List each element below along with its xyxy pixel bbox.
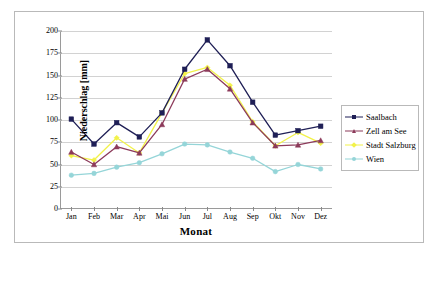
data-point	[182, 67, 187, 72]
x-axis-tick-label: Feb	[88, 213, 100, 221]
x-axis-title: Monat	[60, 225, 332, 237]
y-axis-tick-mark	[58, 209, 62, 210]
y-axis-title: Niederschlag [mm]	[78, 31, 89, 171]
data-point	[250, 100, 255, 105]
y-axis-tick-label: 100	[24, 116, 58, 124]
series-line	[71, 40, 320, 144]
data-point	[159, 122, 164, 127]
plot-area: Niederschlag [mm]	[60, 31, 332, 209]
x-axis-tick-mark	[321, 207, 322, 211]
y-axis-tick-mark	[58, 120, 62, 121]
y-axis-tick-label: 75	[24, 138, 58, 146]
data-point	[205, 143, 210, 148]
x-axis-tick-label: Jun	[179, 213, 190, 221]
series-line	[71, 69, 320, 164]
x-axis-tick-label: Aug	[223, 213, 237, 221]
x-axis-tick-mark	[253, 207, 254, 211]
legend-label: Zell am See	[366, 127, 407, 136]
x-axis-tick-mark	[94, 207, 95, 211]
y-axis-tick-mark	[58, 31, 62, 32]
legend-label: Stadt Salzburg	[366, 141, 416, 150]
legend-label: Wien	[366, 155, 384, 164]
y-axis-tick-label: 175	[24, 49, 58, 57]
x-axis-tick-mark	[207, 207, 208, 211]
data-point	[114, 120, 119, 125]
series-zell-am-see	[69, 67, 324, 167]
x-axis-tick-mark	[117, 207, 118, 211]
data-point	[92, 171, 97, 176]
y-axis-tick-mark	[58, 142, 62, 143]
chart-figure: Niederschlag [mm] 0255075100125150175200…	[14, 11, 424, 243]
x-axis-tick-mark	[298, 207, 299, 211]
x-axis-tick-label: Jan	[66, 213, 77, 221]
series-line	[71, 67, 320, 160]
x-axis-tick-mark	[162, 207, 163, 211]
x-axis-tick-label: Jul	[203, 213, 212, 221]
y-axis-tick-label: 25	[24, 183, 58, 191]
legend-swatch-icon	[345, 126, 363, 136]
legend-label: Saalbach	[366, 113, 397, 122]
x-axis-ticks: JanFebMarAprMaiJunJulAugSepOktNovDez	[60, 211, 332, 225]
x-axis-tick-label: Okt	[269, 213, 281, 221]
x-axis-tick-label: Mar	[110, 213, 123, 221]
data-point	[69, 117, 74, 122]
y-axis-tick-label: 125	[24, 94, 58, 102]
data-series-layer	[60, 31, 332, 209]
data-point	[69, 149, 74, 154]
data-point	[114, 144, 119, 149]
x-axis-tick-label: Nov	[291, 213, 305, 221]
legend-item[interactable]: Zell am See	[345, 124, 415, 138]
y-axis-tick-label: 0	[24, 205, 58, 213]
series-stadt-salzburg	[69, 65, 324, 163]
x-axis-tick-label: Sep	[247, 213, 259, 221]
y-axis-tick-label: 150	[24, 72, 58, 80]
legend-item[interactable]: Saalbach	[345, 110, 415, 124]
legend-swatch-icon	[345, 140, 363, 150]
x-axis-tick-mark	[71, 207, 72, 211]
legend-item[interactable]: Wien	[345, 152, 415, 166]
data-point	[182, 142, 187, 147]
y-axis-tick-mark	[58, 97, 62, 98]
y-axis-tick-label: 50	[24, 161, 58, 169]
series-saalbach	[69, 38, 323, 147]
data-point	[296, 162, 301, 167]
y-axis-tick-mark	[58, 186, 62, 187]
x-axis-tick-label: Apr	[133, 213, 145, 221]
x-axis-tick-mark	[185, 207, 186, 211]
data-point	[228, 63, 233, 68]
x-axis-tick-label: Dez	[314, 213, 327, 221]
y-axis-tick-mark	[58, 164, 62, 165]
data-point	[296, 128, 301, 133]
data-point	[205, 38, 210, 43]
data-point	[160, 152, 165, 157]
legend-swatch-icon	[345, 154, 363, 164]
y-axis-ticks: 0255075100125150175200	[20, 31, 58, 209]
data-point	[137, 160, 142, 165]
y-axis-tick-mark	[58, 53, 62, 54]
legend-swatch-icon	[345, 112, 363, 122]
y-axis-tick-label: 200	[24, 27, 58, 35]
data-point	[318, 167, 323, 172]
data-point	[137, 135, 142, 140]
data-point	[92, 142, 97, 147]
data-point	[250, 156, 255, 161]
x-axis-tick-mark	[230, 207, 231, 211]
data-point	[69, 173, 74, 178]
data-point	[273, 169, 278, 174]
x-axis-tick-mark	[275, 207, 276, 211]
chart-legend: SaalbachZell am SeeStadt SalzburgWien	[341, 105, 419, 171]
data-point	[273, 133, 278, 138]
data-point	[160, 111, 165, 116]
x-axis-tick-mark	[139, 207, 140, 211]
data-point	[114, 165, 119, 170]
series-line	[71, 144, 320, 175]
x-axis-tick-label: Mai	[156, 213, 169, 221]
data-point	[318, 124, 323, 129]
y-axis-tick-mark	[58, 75, 62, 76]
legend-item[interactable]: Stadt Salzburg	[345, 138, 415, 152]
data-point	[228, 150, 233, 155]
